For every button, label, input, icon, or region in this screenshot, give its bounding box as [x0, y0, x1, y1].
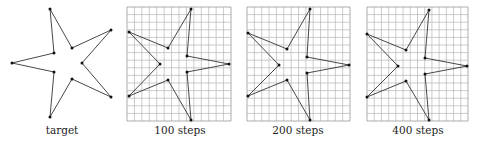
vertex-marker	[306, 56, 309, 59]
vertex-marker	[247, 32, 250, 35]
vertex-marker	[424, 73, 427, 76]
vertex-marker	[366, 96, 369, 99]
caption-target: target	[42, 124, 82, 136]
panel-target	[11, 8, 113, 119]
vertex-marker	[228, 63, 231, 66]
vertex-marker	[190, 119, 193, 122]
vertex-marker	[53, 52, 56, 55]
vertex-marker	[397, 65, 400, 68]
panel-100-steps	[127, 7, 231, 122]
vertex-marker	[186, 55, 189, 58]
vertex-marker	[186, 71, 189, 74]
vertex-marker	[167, 47, 170, 50]
vertex-marker	[128, 31, 131, 34]
vertex-marker	[167, 79, 170, 82]
panel-400-steps	[366, 7, 469, 122]
star-outline	[12, 9, 111, 117]
vertex-marker	[424, 57, 427, 60]
vertex-marker	[110, 29, 113, 32]
vertex-marker	[466, 65, 469, 68]
vertex-marker	[278, 64, 281, 67]
vertex-marker	[405, 80, 408, 83]
grid	[367, 7, 468, 121]
vertex-marker	[286, 79, 289, 82]
vertex-marker	[428, 119, 431, 122]
vertex-marker	[348, 64, 351, 67]
caption-400-steps: 400 steps	[388, 124, 448, 136]
vertex-marker	[428, 9, 431, 12]
vertex-marker	[159, 63, 162, 66]
vertex-marker	[247, 95, 250, 98]
grid	[127, 7, 231, 121]
vertex-marker	[11, 62, 14, 65]
vertex-marker	[49, 8, 52, 11]
vertex-marker	[405, 49, 408, 52]
vertex-marker	[366, 33, 369, 36]
vertex-marker	[53, 71, 56, 74]
vertex-marker	[309, 119, 312, 122]
vertex-marker	[71, 47, 74, 50]
vertex-marker	[190, 8, 193, 11]
vertex-marker	[71, 78, 74, 81]
star-outline	[367, 10, 467, 120]
caption-100-steps: 100 steps	[150, 124, 210, 136]
caption-200-steps: 200 steps	[268, 124, 328, 136]
vertex-marker	[49, 116, 52, 119]
vertex-marker	[110, 96, 113, 99]
vertex-marker	[309, 8, 312, 11]
grid	[247, 7, 350, 121]
panel-200-steps	[247, 7, 351, 122]
vertex-marker	[286, 48, 289, 51]
vertex-marker	[128, 95, 131, 98]
vertex-marker	[306, 72, 309, 75]
vertex-marker	[81, 62, 84, 65]
